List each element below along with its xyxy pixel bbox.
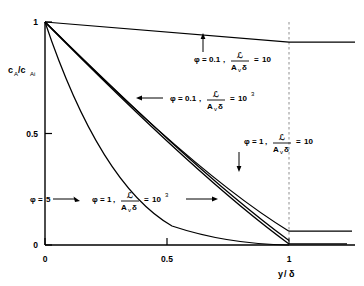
y-axis-title-slash-c: /c bbox=[18, 65, 26, 75]
annotation-numerator-1: ℒ bbox=[237, 51, 243, 60]
x-tick-label-0: 0 bbox=[43, 254, 48, 264]
annotation-ratio-value-4: 10 bbox=[152, 195, 161, 204]
annotation-ratio-value-2: 10 bbox=[238, 94, 247, 103]
annotation-phi-value-4: 1 bbox=[107, 195, 112, 204]
annotation-equals2-1: = bbox=[254, 55, 259, 64]
annotation-denominator-sub-2: v bbox=[214, 106, 217, 112]
annotation-denominator-delta-3: δ bbox=[284, 145, 289, 154]
annotation-numerator-2: ℒ bbox=[213, 90, 219, 99]
y-tick-label-0p5: 0.5 bbox=[26, 129, 38, 139]
annotation-phi-value-2: 0.1 bbox=[185, 94, 197, 103]
x-axis-title: y / δ bbox=[278, 269, 295, 279]
concentration-profile-chart: 1 0.5 0 0 0.5 1 c A /c Ai y / δ bbox=[0, 0, 364, 286]
annotation-denominator-delta-1: δ bbox=[242, 63, 247, 72]
annotation-comma-3: , bbox=[265, 137, 267, 146]
chart-figure: 1 0.5 0 0 0.5 1 c A /c Ai y / δ bbox=[0, 0, 364, 286]
annotation-numerator-4: ℒ bbox=[127, 191, 133, 200]
annotation-equals-2: = bbox=[178, 94, 183, 103]
annotation-denominator-A-2: A bbox=[207, 102, 213, 111]
annotation-phi-symbol-2: φ bbox=[170, 94, 176, 103]
annotation-denominator-delta-2: δ bbox=[218, 102, 223, 111]
annotation-ratio-value-3: 10 bbox=[304, 137, 313, 146]
y-tick-label-0: 0 bbox=[33, 240, 38, 250]
annotation-denominator-A-3: A bbox=[273, 145, 279, 154]
y-tick-label-1: 1 bbox=[33, 17, 38, 27]
annotation-phi-symbol-5: φ bbox=[30, 195, 36, 204]
annotation-denominator-A-1: A bbox=[231, 63, 237, 72]
y-axis-title-sub-ai: Ai bbox=[30, 71, 35, 77]
annotation-comma-2: , bbox=[199, 94, 201, 103]
annotation-phi-value-5: 5 bbox=[46, 195, 51, 204]
annotation-equals-5: = bbox=[38, 195, 43, 204]
annotation-phi-symbol-1: φ bbox=[194, 55, 200, 64]
x-tick-label-1: 1 bbox=[287, 254, 292, 264]
x-axis-title-y: y bbox=[278, 269, 283, 279]
annotation-phi-symbol-4: φ bbox=[92, 195, 98, 204]
annotation-phi-value-1: 0.1 bbox=[209, 55, 221, 64]
annotation-phi-symbol-3: φ bbox=[244, 137, 250, 146]
x-axis-title-delta: δ bbox=[289, 269, 295, 279]
annotation-equals2-4: = bbox=[144, 195, 149, 204]
annotation-equals-4: = bbox=[100, 195, 105, 204]
annotation-equals-3: = bbox=[252, 137, 257, 146]
annotation-phi-value-3: 1 bbox=[259, 137, 264, 146]
annotation-denominator-sub-1: v bbox=[238, 67, 241, 73]
annotation-numerator-3: ℒ bbox=[279, 133, 285, 142]
annotation-denominator-sub-3: v bbox=[280, 149, 283, 155]
annotation-denominator-A-4: A bbox=[121, 203, 127, 212]
y-axis-title-c: c bbox=[8, 65, 13, 75]
annotation-comma-4: , bbox=[113, 195, 115, 204]
x-tick-label-0p5: 0.5 bbox=[161, 254, 173, 264]
annotation-equals-1: = bbox=[202, 55, 207, 64]
annotation-comma-1: , bbox=[223, 55, 225, 64]
annotation-equals2-2: = bbox=[230, 94, 235, 103]
annotation-equals2-3: = bbox=[296, 137, 301, 146]
annotation-denominator-delta-4: δ bbox=[132, 203, 137, 212]
annotation-denominator-sub-4: v bbox=[128, 207, 131, 213]
annotation-ratio-value-1: 10 bbox=[262, 55, 271, 64]
